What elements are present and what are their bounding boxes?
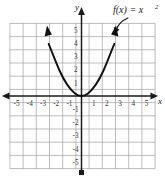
function-label-exponent: 2: [155, 3, 159, 10]
y-tick-label: 2: [74, 66, 78, 74]
y-tick-label: -4: [73, 146, 79, 154]
function-label: f(x) = x 2: [113, 3, 159, 16]
x-axis-left-arrowhead: [2, 93, 10, 100]
x-tick-label: -2: [53, 100, 59, 108]
function-label-text: f(x) = x: [113, 4, 144, 16]
y-tick-label: -5: [73, 159, 79, 167]
y-tick-label: 4: [74, 40, 78, 48]
x-tick-label: 4: [132, 100, 136, 108]
x-tick-label: -5: [14, 100, 20, 108]
y-tick-label: -3: [73, 132, 79, 140]
x-tick-label: 3: [118, 100, 122, 108]
x-axis-label: x: [157, 96, 162, 106]
y-tick-label: 5: [74, 27, 78, 35]
coordinate-plane-svg: -5 -4 -3 -2 -1 1 2 3 4 5 5 4 3 2 1 -1 -2…: [0, 0, 165, 176]
x-tick-label: 5: [145, 100, 149, 108]
x-tick-label: -4: [27, 100, 33, 108]
y-tick-label: 3: [74, 53, 78, 61]
axes: [2, 7, 158, 175]
y-axis-label: y: [74, 2, 79, 12]
graph-figure: -5 -4 -3 -2 -1 1 2 3 4 5 5 4 3 2 1 -1 -2…: [0, 0, 165, 176]
parabola-left-arrowhead: [45, 26, 52, 37]
x-tick-label: 1: [92, 100, 96, 108]
y-tick-label: 1: [74, 80, 78, 88]
x-tick-label: 2: [105, 100, 109, 108]
x-tick-label: -3: [40, 100, 46, 108]
y-axis-top-arrowhead: [78, 7, 85, 15]
y-axis-bottom-cap: [79, 170, 84, 175]
x-axis-right-arrowhead: [151, 93, 159, 100]
y-tick-label: -2: [73, 119, 79, 127]
y-tick-label: -1: [73, 106, 79, 114]
